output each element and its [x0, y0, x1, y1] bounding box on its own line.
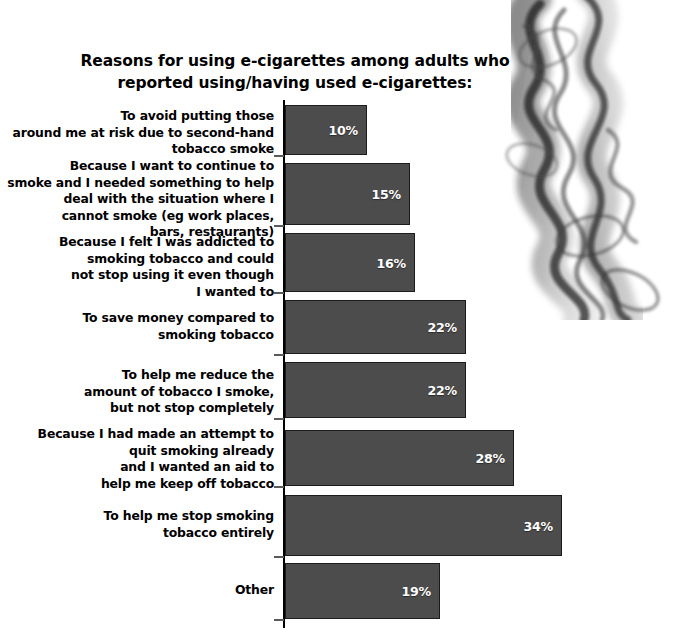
bar-value-label: 10% [328, 123, 358, 138]
axis-tick [274, 225, 284, 227]
bar-value-label: 28% [475, 451, 505, 466]
bar[interactable]: 16% [285, 233, 415, 292]
bar-row: Because I want to continue to smoke and … [0, 163, 685, 225]
bar-row: Because I felt I was addicted to smoking… [0, 233, 685, 292]
bar-value-label: 16% [376, 255, 406, 270]
bar-row: Other 19% [0, 563, 685, 619]
bar[interactable]: 28% [285, 430, 514, 486]
bar[interactable]: 15% [285, 163, 410, 225]
chart-title-line-2: reported using/having used e-cigarettes: [60, 72, 530, 94]
bar-row: To save money compared to smoking tobacc… [0, 300, 685, 354]
bar-row: Because I had made an attempt to quit sm… [0, 430, 685, 486]
bar[interactable]: 10% [285, 105, 367, 155]
chart-title: Reasons for using e-cigarettes among adu… [60, 50, 530, 94]
category-label: Because I want to continue to smoke and … [0, 158, 274, 241]
category-label: Other [0, 582, 274, 599]
axis-tick [274, 619, 284, 621]
bar[interactable]: 22% [285, 300, 466, 354]
bar-value-label: 22% [427, 383, 457, 398]
category-label: To avoid putting those around me at risk… [0, 108, 274, 158]
category-label: To help me reduce the amount of tobacco … [0, 367, 274, 417]
bar-value-label: 22% [427, 320, 457, 335]
bar-value-label: 15% [371, 187, 401, 202]
category-label: To save money compared to smoking tobacc… [0, 310, 274, 343]
category-label: To help me stop smoking tobacco entirely [0, 508, 274, 541]
axis-tick [274, 155, 284, 157]
axis-tick [274, 486, 284, 488]
axis-tick [274, 556, 284, 558]
category-label: Because I had made an attempt to quit sm… [0, 426, 274, 492]
axis-tick [274, 292, 284, 294]
chart-title-line-1: Reasons for using e-cigarettes among adu… [60, 50, 530, 72]
bar-row: To help me reduce the amount of tobacco … [0, 362, 685, 418]
axis-tick [274, 418, 284, 420]
bar[interactable]: 19% [285, 563, 440, 619]
plot-area: To avoid putting those around me at risk… [0, 0, 685, 638]
bar-row: To avoid putting those around me at risk… [0, 105, 685, 155]
axis-tick [274, 354, 284, 356]
bar-value-label: 19% [401, 584, 431, 599]
chart-root: Reasons for using e-cigarettes among adu… [0, 0, 685, 638]
bar-row: To help me stop smoking tobacco entirely… [0, 495, 685, 556]
category-label: Because I felt I was addicted to smoking… [0, 234, 274, 300]
bar-value-label: 34% [523, 518, 553, 533]
bar[interactable]: 34% [285, 495, 562, 556]
bar[interactable]: 22% [285, 362, 466, 418]
